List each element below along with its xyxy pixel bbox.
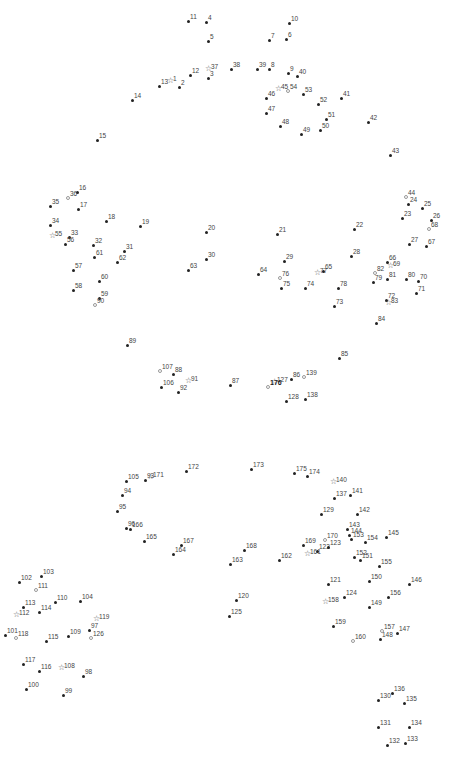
dot-number-label: 139 (306, 369, 317, 376)
dot-number-label: 53 (305, 86, 312, 93)
dot-number-label: 142 (359, 506, 370, 513)
dot-number-label: 58 (75, 282, 82, 289)
dot-number-label: 42 (370, 114, 377, 121)
dot-number-label: 40 (299, 68, 306, 75)
dot-number-label: 46 (268, 90, 275, 97)
dot-number-label: 111 (38, 582, 48, 589)
dot-number-label: 106 (163, 379, 174, 386)
dot-number-label: 70 (420, 273, 427, 280)
dot-number-label: 27 (411, 236, 418, 243)
dot-number-label: 64 (260, 266, 267, 273)
dot-number-label: 114 (41, 604, 51, 611)
dot-number-label: 92 (180, 384, 187, 391)
dot-number-label: 141 (352, 487, 363, 494)
dot-number-label: 73 (336, 298, 343, 305)
dot-number-label: 123 (330, 539, 341, 546)
dot-number-label: 28 (353, 248, 360, 255)
dot-number-label: 136 (394, 685, 405, 692)
dot-number-label: 159 (335, 618, 346, 625)
dot-number-label: 14 (134, 92, 141, 99)
dot-number-label: 172 (188, 463, 199, 470)
dot-number-label: 19 (142, 218, 149, 225)
dot-number-label: 54 (290, 83, 297, 90)
dot-number-label: 80 (408, 271, 415, 278)
dot-number-label: 171 (153, 471, 164, 478)
dot-number-label: 74 (307, 280, 314, 287)
dot-number-label: 22 (356, 221, 363, 228)
dot-number-label: 29 (286, 253, 293, 260)
dot-number-label: 9 (290, 65, 294, 72)
dot-number-label: 113 (25, 599, 35, 606)
dot-number-label: 60 (101, 273, 108, 280)
dot-number-label: 83 (391, 297, 398, 304)
dot-number-label: 98 (85, 668, 92, 675)
dot-number-label: 26 (433, 212, 440, 219)
dot-number-label: 81 (389, 271, 396, 278)
dot-to-dot-canvas: ☆123456789101112131415161718192021222324… (0, 0, 454, 764)
dot-number-label: 18 (108, 213, 115, 220)
dot-number-label: 47 (268, 105, 275, 112)
dot-number-label: 8 (271, 61, 275, 68)
dot-number-label: 38 (233, 61, 240, 68)
dot-number-label: 68 (431, 221, 438, 228)
dot-number-label: 153 (353, 531, 364, 538)
dot-number-label: 108 (64, 662, 75, 669)
dot-number-label: 21 (279, 226, 286, 233)
dot-number-label: 158 (328, 596, 339, 603)
dot-number-label: 33 (71, 229, 78, 236)
dot-number-label: 134 (411, 719, 422, 726)
dot-number-label: 55 (55, 230, 62, 237)
dot-number-label: 15 (99, 132, 106, 139)
dot-number-label: 137 (336, 490, 347, 497)
dot-number-label: 76 (282, 270, 289, 277)
dot-number-label: 163 (232, 556, 243, 563)
dot-number-label: 56 (67, 236, 74, 243)
dot-number-label: 133 (407, 735, 418, 742)
dot-number-label: 99 (65, 687, 72, 694)
dot-number-label: 149 (371, 599, 382, 606)
dot-number-label: 30 (208, 251, 215, 258)
dot-number-label: 36 (70, 190, 77, 197)
dot-number-label: 174 (309, 468, 320, 475)
dot-number-label: 6 (288, 31, 292, 38)
dot-number-label: 128 (288, 393, 299, 400)
dot-number-label: 131 (380, 719, 391, 726)
dot-number-label: 51 (328, 111, 335, 118)
dot-number-label: 90 (97, 297, 104, 304)
dot-number-label: 32 (95, 237, 102, 244)
dot-number-label: 52 (320, 96, 327, 103)
dot-number-label: 41 (343, 90, 350, 97)
dot-number-label: 69 (393, 260, 400, 267)
dot-number-label: 155 (381, 558, 392, 565)
dot-number-label: 154 (367, 534, 378, 541)
dot-number-label: 48 (282, 118, 289, 125)
dot-number-label: 146 (411, 576, 422, 583)
dot-number-label: 112 (19, 609, 29, 616)
dot-number-label: 173 (253, 461, 264, 468)
dot-number-label: 168 (246, 542, 257, 549)
dot-number-label: 115 (48, 633, 58, 640)
dot-number-label: 157 (384, 623, 395, 630)
dot-number-label: 94 (124, 487, 131, 494)
dot-number-label: 1 (173, 75, 177, 82)
dot-number-label: 75 (283, 280, 290, 287)
dot-number-label: 84 (378, 315, 385, 322)
dot-number-label: 5 (210, 33, 214, 40)
dot-number-label: 160 (355, 633, 366, 640)
dot-number-label: 150 (371, 573, 382, 580)
dot-number-label: 125 (231, 608, 242, 615)
dot-number-label: 16 (79, 184, 86, 191)
dot-number-label: 162 (281, 552, 292, 559)
dot-number-label: 140 (336, 476, 347, 483)
dot-number-label: 100 (28, 681, 39, 688)
dot-number-label: 88 (175, 366, 182, 373)
dot-number-label: 43 (392, 147, 399, 154)
dot-number-label: 82 (377, 265, 384, 272)
dot-number-label: 129 (323, 506, 334, 513)
dot-number-label: 23 (404, 210, 411, 217)
dot-number-label: 79 (375, 274, 382, 281)
dot-number-label: 89 (129, 337, 136, 344)
dot-number-label: 117 (25, 656, 35, 663)
dot-number-label: 107 (162, 363, 173, 370)
dot-number-label: 71 (418, 285, 425, 292)
